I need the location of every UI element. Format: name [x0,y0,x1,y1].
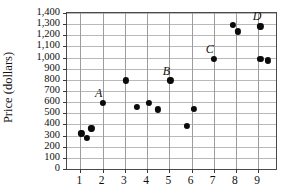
data-point [191,106,197,112]
gridline-horizontal [67,35,276,36]
y-axis-tick [63,69,67,70]
x-axis-tick [214,169,215,173]
gridline-horizontal [67,24,276,25]
y-axis-tick-label: 600 [44,96,60,107]
gridline-vertical [192,13,193,169]
y-axis-tick-label: 700 [44,85,60,96]
plot-inner: ABCD [67,13,276,169]
gridline-vertical [125,13,126,169]
gridline-horizontal [67,124,276,125]
data-point [184,122,190,128]
x-axis-tick [103,169,104,173]
y-axis-tick-label: 1,200 [36,29,60,40]
y-axis-tick-label: 200 [44,141,60,152]
y-axis-tick [63,169,67,170]
point-label-a: A [95,86,102,101]
y-axis-tick-label: 0 [55,163,60,174]
x-axis-tick [192,169,193,173]
y-axis-tick-label: 500 [44,107,60,118]
scatter-plot-figure: Price (dollars) ABCD 0100200300400500600… [0,0,284,196]
y-axis-tick [63,35,67,36]
y-axis-tick [63,147,67,148]
x-axis-tick-label: 6 [181,175,201,187]
x-axis-tick-label: 8 [225,175,245,187]
y-axis-tick-label: 100 [44,152,60,163]
gridline-horizontal [67,58,276,59]
data-point [265,57,271,63]
x-axis-tick-label: 3 [114,175,134,187]
y-axis-tick [63,124,67,125]
gridline-horizontal [67,136,276,137]
gridline-vertical [214,13,215,169]
gridline-vertical [103,13,104,169]
y-axis-tick [63,136,67,137]
y-axis-tick [63,58,67,59]
y-axis-tick [63,24,67,25]
x-axis-tick [169,169,170,173]
y-axis-title: Price (dollars) [0,0,18,175]
point-label-c: C [206,42,214,57]
data-point [146,100,152,106]
y-axis-tick [63,80,67,81]
x-axis-tick [80,169,81,173]
y-axis-tick [63,113,67,114]
gridline-vertical [258,13,259,169]
x-axis-tick [125,169,126,173]
y-axis-tick-label: 800 [44,74,60,85]
data-point [155,106,161,112]
gridline-vertical [236,13,237,169]
x-axis-tick-label: 5 [158,175,178,187]
y-axis-tick [63,46,67,47]
point-label-d: D [253,9,262,24]
gridline-horizontal [67,69,276,70]
y-axis-tick-label: 1,400 [36,7,60,18]
y-axis-tick-label: 1,000 [36,52,60,63]
y-axis-tick-label: 900 [44,63,60,74]
x-axis-tick-label: 7 [203,175,223,187]
data-point [230,22,236,28]
data-point [83,135,89,141]
data-point [88,125,94,131]
point-label-b: B [163,63,170,78]
data-point [257,23,263,29]
x-axis-tick-label: 4 [136,175,156,187]
gridline-vertical [147,13,148,169]
y-axis-title-text: Price (dollars) [2,52,17,123]
data-point [123,77,129,83]
plot-area: ABCD [66,12,277,170]
gridline-vertical [169,13,170,169]
x-axis-tick [236,169,237,173]
gridline-vertical [80,13,81,169]
gridline-horizontal [67,13,276,14]
x-axis-tick-label: 9 [247,175,267,187]
x-axis-tick-label: 1 [69,175,89,187]
data-point [134,104,140,110]
x-axis-tick [258,169,259,173]
gridline-horizontal [67,46,276,47]
data-point [235,28,241,34]
x-axis-tick-label: 2 [92,175,112,187]
y-axis-tick-label: 1,300 [36,18,60,29]
x-axis-tick [147,169,148,173]
y-axis-tick-label: 1,100 [36,40,60,51]
y-axis-tick [63,13,67,14]
data-point [257,56,263,62]
y-axis-tick [63,158,67,159]
gridline-horizontal [67,113,276,114]
y-axis-tick [63,91,67,92]
gridline-horizontal [67,102,276,103]
y-axis-tick-label: 400 [44,118,60,129]
y-axis-tick [63,102,67,103]
gridline-horizontal [67,158,276,159]
gridline-horizontal [67,147,276,148]
y-axis-tick-label: 300 [44,130,60,141]
